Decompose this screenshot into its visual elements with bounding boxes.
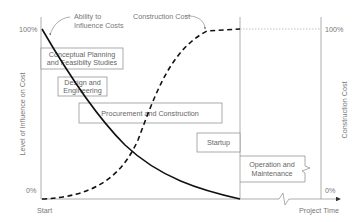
diagram-canvas: Conceptual Planning and Feasibilty Studi… bbox=[0, 0, 364, 222]
x-end-label: Project Time bbox=[299, 206, 339, 215]
x-start-label: Start bbox=[37, 206, 52, 215]
phase-box-operation: Operation and Maintenance bbox=[240, 156, 310, 182]
phase-label: Operation and bbox=[249, 160, 295, 169]
influence-callout-label: Influence Costs bbox=[74, 21, 124, 30]
open-ended-break-icon bbox=[302, 156, 310, 182]
phase-box-startup: Startup bbox=[197, 133, 240, 152]
right-top-tick: 100% bbox=[325, 25, 344, 34]
left-axis-title: Level of Influence on Cost bbox=[18, 72, 27, 155]
phase-label: Procurement and Construction bbox=[101, 109, 198, 118]
cost-callout-label: Construction Cost bbox=[133, 12, 190, 21]
phase-label: and Feasibilty Studies bbox=[47, 58, 118, 67]
left-top-tick: 100% bbox=[19, 25, 38, 34]
influence-callout-label: Ability to bbox=[74, 12, 101, 21]
left-bottom-tick: 0% bbox=[26, 186, 37, 195]
influence-callout-arrow bbox=[50, 17, 70, 35]
phase-label: Maintenance bbox=[251, 169, 292, 178]
right-bottom-tick: 0% bbox=[325, 186, 336, 195]
axis-break-icon bbox=[279, 193, 289, 205]
right-axis-title: Construction Cost bbox=[340, 81, 349, 138]
phase-label: Startup bbox=[207, 138, 230, 147]
phase-box-conceptual: Conceptual Planning and Feasibilty Studi… bbox=[41, 48, 123, 69]
